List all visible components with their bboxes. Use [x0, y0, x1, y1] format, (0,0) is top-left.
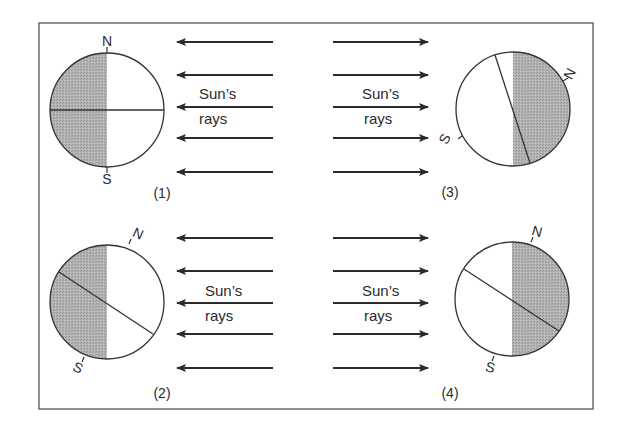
- sun-rays-label: Sun’s: [362, 85, 399, 102]
- sun-rays-label: Sun’s: [199, 85, 236, 102]
- sun-rays-label: Sun’s: [205, 282, 242, 299]
- north-label: N: [530, 222, 544, 240]
- sun-rays-left: [177, 42, 273, 172]
- south-label: S: [70, 358, 85, 376]
- north-label: N: [130, 224, 146, 243]
- panel-2: N S Sun’s rays (2): [50, 224, 273, 401]
- night-shade: [513, 52, 570, 166]
- south-tick: [458, 136, 462, 139]
- panel-label: (4): [441, 385, 458, 401]
- sun-rays-label: rays: [364, 110, 392, 127]
- north-label: N: [560, 65, 579, 81]
- panel-3: Sun’s rays N S (3): [333, 42, 579, 200]
- earth-sun-rays-diagram: N S Sun’s rays (1) Sun’s rays: [0, 0, 624, 433]
- earth-globe-2: N S: [50, 224, 164, 377]
- south-label: S: [435, 131, 454, 147]
- sun-rays-left: [177, 238, 273, 368]
- diagram-frame: [39, 23, 593, 409]
- sun-rays-right: [333, 42, 428, 172]
- panel-4: Sun’s rays N S (4): [333, 222, 569, 401]
- night-shade: [512, 242, 569, 356]
- earth-globe-1: N S: [50, 33, 164, 187]
- sun-rays-label: rays: [364, 307, 392, 324]
- south-label: S: [484, 358, 497, 376]
- sun-rays-right: [333, 238, 428, 368]
- north-label: N: [102, 33, 112, 49]
- panel-label: (3): [441, 184, 458, 200]
- earth-globe-4: N S: [455, 222, 569, 376]
- earth-globe-3: N S: [435, 52, 579, 166]
- sun-rays-label: rays: [199, 110, 227, 127]
- panel-1: N S Sun’s rays (1): [50, 33, 273, 201]
- sun-rays-label: Sun’s: [362, 282, 399, 299]
- panel-label: (1): [153, 185, 170, 201]
- sun-rays-label: rays: [205, 307, 233, 324]
- night-shade: [50, 245, 107, 359]
- north-tick: [129, 239, 131, 244]
- panel-label: (2): [153, 385, 170, 401]
- south-label: S: [102, 171, 111, 187]
